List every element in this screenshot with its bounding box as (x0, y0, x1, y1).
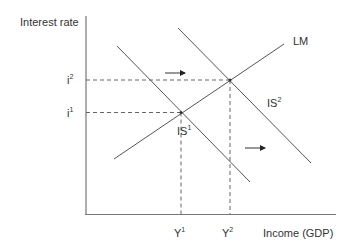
x-axis-label: Income (GDP) (263, 227, 333, 239)
x-tick-y2: Y2 (222, 226, 233, 239)
is2-label: IS2 (267, 96, 281, 109)
equilibrium-point-2 (229, 79, 232, 82)
x-tick-y1: Y1 (174, 226, 185, 239)
equilibrium-point-1 (180, 111, 183, 114)
is2-curve (178, 28, 311, 163)
curves (114, 28, 311, 182)
is1-label-sup: 1 (187, 124, 191, 131)
is1-label: IS1 (177, 124, 191, 137)
y-tick-i1: i1 (67, 106, 73, 119)
y-tick-i2: i2 (67, 73, 73, 86)
is-lm-diagram: Interest rate Income (GDP) LM IS2 IS1 i2 (0, 0, 360, 245)
y-axis-label: Interest rate (20, 16, 79, 28)
is2-label-sup: 2 (277, 96, 281, 103)
lm-curve (114, 44, 284, 159)
guide-lines (86, 80, 230, 214)
is1-curve (117, 46, 250, 182)
lm-label: LM (293, 35, 308, 47)
